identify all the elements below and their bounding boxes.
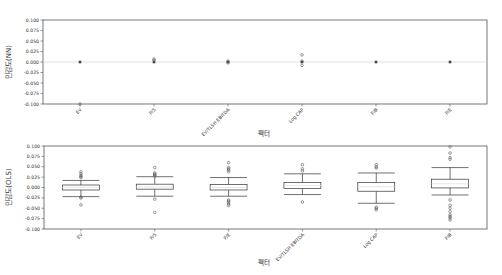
- y-tick-label: -0.025: [24, 70, 39, 75]
- box-p-s: [136, 166, 173, 213]
- x-tick-label: P/B: [370, 107, 379, 116]
- y-tick-label: 0.050: [26, 39, 39, 44]
- x-tick-label: Log CAP: [362, 232, 379, 249]
- y-tick-label: 0.025: [27, 175, 40, 180]
- box-ev: [43, 61, 117, 106]
- y-tick-label: -0.100: [25, 227, 40, 232]
- x-tick-label: EV: [76, 232, 84, 240]
- outlier-point: [449, 210, 452, 213]
- x-tick-label: EV/TLSH EBITDA: [275, 232, 306, 263]
- bottom-y-axis-label: 민감도(OLS): [4, 168, 13, 206]
- y-tick-label: -0.075: [24, 91, 39, 96]
- box-p-e: [210, 161, 247, 206]
- top-x-axis-label: 팩터: [258, 129, 270, 138]
- bottom-axes-ols: 0.1000.0750.0500.0250.000-0.025-0.050-0.…: [25, 144, 487, 263]
- box-p-b: [432, 146, 469, 222]
- outlier-point: [153, 166, 156, 169]
- y-tick-label: 0.025: [26, 49, 39, 54]
- bottom-x-axis-label: 팩터: [258, 258, 270, 267]
- outlier-point: [301, 64, 304, 67]
- x-tick-label: EV/TLSH EBITDA: [201, 107, 232, 138]
- x-tick-label: P/S: [148, 107, 157, 116]
- box-log-cap: [265, 54, 339, 67]
- box-p-s: [117, 58, 191, 64]
- y-tick-label: -0.075: [25, 216, 40, 221]
- outlier-point: [301, 54, 304, 57]
- outlier-point: [227, 170, 230, 173]
- box-ev: [62, 170, 99, 206]
- y-tick-label: -0.100: [24, 102, 39, 107]
- y-tick-label: 0.100: [26, 18, 39, 23]
- outlier-point: [449, 199, 452, 202]
- outlier-point: [80, 204, 83, 207]
- outlier-point: [449, 204, 452, 207]
- x-tick-label: EV: [75, 107, 83, 115]
- axes-frame: [44, 146, 487, 229]
- y-tick-label: 0.075: [27, 154, 40, 159]
- top-y-axis-label: 민감도(NN): [4, 45, 13, 79]
- outlier-point: [227, 161, 230, 164]
- outlier-point: [449, 207, 452, 210]
- x-tick-label: Log CAP: [288, 107, 305, 124]
- y-tick-label: 0.000: [26, 60, 39, 65]
- y-tick-label: -0.050: [24, 81, 39, 86]
- outlier-point: [449, 152, 452, 155]
- x-tick-label: P/E: [223, 232, 232, 241]
- outlier-point: [301, 201, 304, 204]
- x-tick-label: P/S: [149, 232, 158, 241]
- box-p-e: [413, 61, 487, 64]
- x-tick-label: P/E: [444, 107, 453, 116]
- y-tick-label: 0.050: [27, 164, 40, 169]
- box-ev-tlsh-ebitda: [284, 163, 321, 203]
- y-tick-label: -0.025: [25, 195, 40, 200]
- box-p-b: [339, 61, 413, 64]
- y-tick-label: 0.100: [27, 144, 40, 149]
- outlier-point: [301, 163, 304, 166]
- box-ev-tlsh-ebitda: [191, 60, 265, 64]
- box-log-cap: [358, 163, 395, 211]
- outlier-point: [449, 158, 452, 161]
- x-tick-label: P/B: [444, 232, 453, 241]
- y-tick-label: 0.075: [26, 28, 39, 33]
- y-tick-label: 0.000: [27, 185, 40, 190]
- outlier-point: [153, 198, 156, 201]
- top-axes-nn: 0.1000.0750.0500.0250.000-0.025-0.050-0.…: [24, 18, 487, 138]
- outlier-point: [153, 211, 156, 214]
- figure: 0.1000.0750.0500.0250.000-0.025-0.050-0.…: [0, 0, 502, 275]
- y-tick-label: -0.050: [25, 206, 40, 211]
